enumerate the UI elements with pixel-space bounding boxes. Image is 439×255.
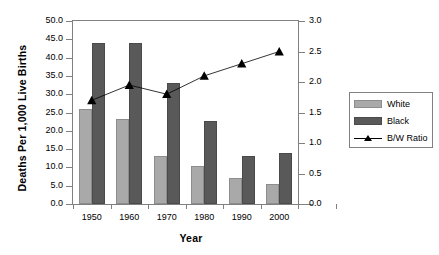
bar-black: [279, 153, 292, 204]
legend-item-white[interactable]: White: [354, 97, 410, 111]
x-axis-tick-label: 1970: [147, 212, 187, 222]
x-axis-tick: [223, 204, 224, 209]
y-left-tick: [66, 58, 73, 59]
y-right-tick-label: 0.0: [309, 198, 322, 208]
y-right-tick: [298, 204, 305, 205]
x-axis-tick: [186, 204, 187, 209]
y-left-tick: [66, 131, 73, 132]
y-left-tick-label: 30.0: [33, 88, 63, 98]
y-left-tick-label: 45.0: [33, 33, 63, 43]
bar-white: [154, 156, 167, 204]
y-axis-left-title: Deaths Per 1,000 Live Births: [16, 25, 28, 211]
bar-white: [266, 184, 279, 204]
black-bar-swatch-icon: [354, 117, 382, 125]
y-right-tick: [298, 21, 305, 22]
legend-label-white: White: [387, 99, 410, 109]
bar-black: [167, 83, 180, 204]
legend-label-bw-ratio: B/W Ratio: [387, 133, 428, 143]
x-axis-tick-label: 1980: [184, 212, 224, 222]
bar-white: [116, 119, 129, 204]
x-axis-tick-label: 2000: [259, 212, 299, 222]
y-left-tick-label: 50.0: [33, 15, 63, 25]
bw-ratio-line: [92, 52, 280, 101]
y-right-tick-label: 0.5: [309, 168, 322, 178]
bar-white: [79, 109, 92, 204]
bar-white: [229, 178, 242, 204]
legend-item-black[interactable]: Black: [354, 114, 409, 128]
y-left-tick: [66, 21, 73, 22]
chart-container: Deaths Per 1,000 Live Births B/W Ratio Y…: [0, 0, 439, 255]
y-right-tick: [298, 174, 305, 175]
legend-label-black: Black: [387, 116, 409, 126]
x-axis-tick: [73, 204, 74, 209]
x-axis-tick-label: 1960: [109, 212, 149, 222]
y-left-tick: [66, 76, 73, 77]
bar-black: [242, 156, 255, 204]
bw-ratio-line-series: [73, 21, 298, 204]
y-right-tick-label: 2.5: [309, 46, 322, 56]
y-right-tick: [298, 113, 305, 114]
y-left-tick-label: 35.0: [33, 70, 63, 80]
bar-black: [129, 43, 142, 204]
x-axis-tick-label: 1950: [72, 212, 112, 222]
y-right-tick: [298, 82, 305, 83]
x-axis-tick: [261, 204, 262, 209]
y-left-tick-label: 0.0: [33, 198, 63, 208]
y-right-tick-label: 1.5: [309, 107, 322, 117]
y-left-tick: [66, 113, 73, 114]
x-axis-tick: [111, 204, 112, 209]
y-left-tick-label: 40.0: [33, 52, 63, 62]
x-axis-tick: [336, 204, 337, 209]
y-right-tick-label: 3.0: [309, 15, 322, 25]
y-right-tick-label: 2.0: [309, 76, 322, 86]
legend: White Black B/W Ratio: [349, 92, 433, 148]
bar-black: [92, 43, 105, 204]
bw-ratio-marker: [200, 71, 209, 80]
y-left-tick: [66, 39, 73, 40]
y-right-tick: [298, 143, 305, 144]
y-left-tick: [66, 94, 73, 95]
y-left-tick-label: 20.0: [33, 125, 63, 135]
y-left-tick: [66, 204, 73, 205]
x-axis-tick-label: 1990: [222, 212, 262, 222]
y-right-tick-label: 1.0: [309, 137, 322, 147]
y-left-tick-label: 5.0: [33, 180, 63, 190]
x-axis-tick: [298, 204, 299, 209]
bar-black: [204, 121, 217, 204]
y-right-tick: [298, 52, 305, 53]
white-bar-swatch-icon: [354, 100, 382, 108]
y-left-tick: [66, 167, 73, 168]
y-left-tick-label: 10.0: [33, 161, 63, 171]
bw-ratio-marker: [275, 47, 284, 56]
y-left-tick-label: 15.0: [33, 143, 63, 153]
x-axis-tick: [148, 204, 149, 209]
line-marker-swatch-icon: [354, 134, 382, 142]
y-left-tick-label: 25.0: [33, 107, 63, 117]
y-left-tick: [66, 149, 73, 150]
y-left-tick: [66, 186, 73, 187]
bar-white: [191, 166, 204, 204]
plot-area: [73, 21, 298, 204]
legend-item-bw-ratio[interactable]: B/W Ratio: [354, 131, 428, 145]
x-axis-line: [72, 204, 313, 205]
x-axis-title: Year: [136, 232, 246, 244]
bw-ratio-marker: [237, 59, 246, 68]
